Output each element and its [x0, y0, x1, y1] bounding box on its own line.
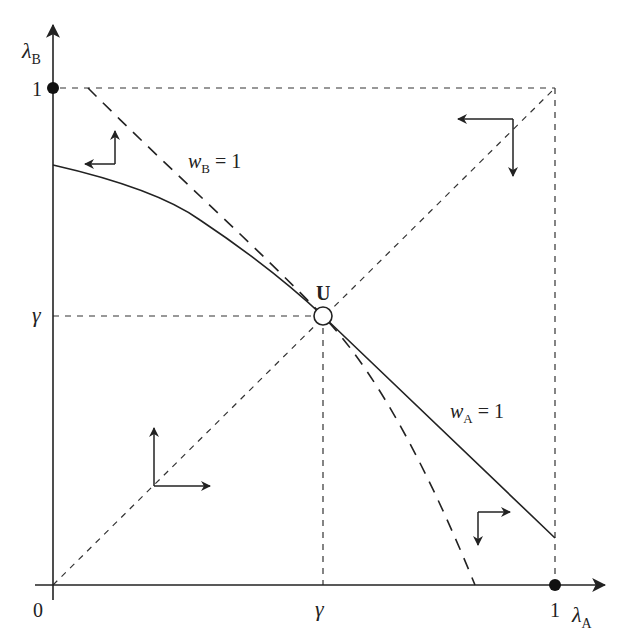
U-label: U — [316, 282, 330, 304]
wB-label: wB = 1 — [188, 150, 241, 176]
y-tick-one: 1 — [32, 78, 42, 100]
y-axis-label: λB — [21, 38, 41, 67]
arrows-upper-left — [85, 131, 115, 164]
arrows-upper-right — [458, 119, 513, 176]
diagonal-line — [53, 88, 555, 585]
phase-diagram: U λB λA 1 γ 0 γ 1 wB = 1 wA = 1 — [0, 0, 624, 640]
wA-curve — [53, 165, 555, 538]
y-tick-gamma: γ — [32, 302, 42, 327]
x-axis-label: λA — [571, 602, 593, 631]
point-lambdaB-one — [47, 82, 59, 94]
origin-label: 0 — [33, 599, 43, 621]
x-tick-one: 1 — [550, 599, 560, 621]
wB-curve — [88, 88, 475, 585]
arrows-lower-right — [478, 512, 510, 545]
x-tick-gamma: γ — [315, 596, 325, 621]
point-U — [314, 307, 332, 325]
guide-lines — [53, 88, 555, 585]
wA-label: wA = 1 — [450, 400, 504, 426]
point-lambdaA-one — [549, 579, 561, 591]
